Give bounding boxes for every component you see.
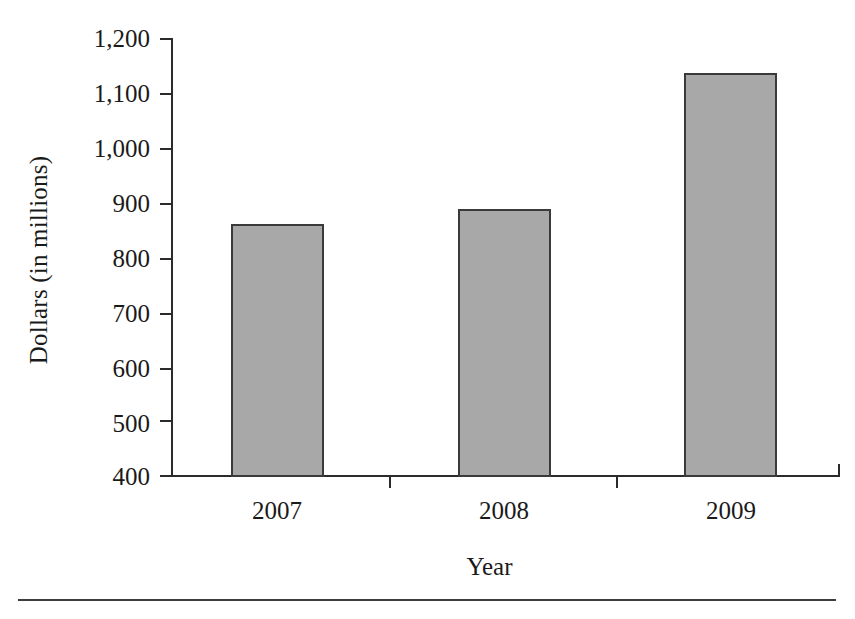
y-tick-label-600: 600 bbox=[50, 356, 150, 381]
y-axis-tick-labels: 1,200 1,100 1,000 900 800 700 600 500 40… bbox=[48, 0, 150, 619]
y-tick-label-800: 800 bbox=[50, 246, 150, 271]
y-axis-tick-500 bbox=[160, 420, 172, 422]
x-axis-tick-boundary-1 bbox=[389, 477, 391, 488]
x-axis-tick-boundary-2 bbox=[616, 477, 618, 488]
x-axis-end-cap bbox=[838, 464, 840, 477]
x-tick-label-2007: 2007 bbox=[177, 496, 377, 526]
y-tick-label-1200: 1,200 bbox=[50, 26, 150, 51]
y-axis-tick-600 bbox=[160, 368, 172, 370]
y-tick-label-700: 700 bbox=[50, 301, 150, 326]
y-tick-label-400: 400 bbox=[50, 464, 150, 489]
bar-2009[interactable] bbox=[684, 73, 777, 477]
y-axis-tick-800 bbox=[160, 258, 172, 260]
bottom-divider bbox=[18, 599, 836, 601]
x-tick-label-2008: 2008 bbox=[404, 496, 604, 526]
bar-2007[interactable] bbox=[231, 224, 324, 477]
y-axis-tick-900 bbox=[160, 203, 172, 205]
y-tick-label-1000: 1,000 bbox=[50, 136, 150, 161]
y-tick-label-500: 500 bbox=[50, 411, 150, 436]
bar-chart-figure: Dollars (in millions) 1,200 1,100 1,000 … bbox=[0, 0, 855, 619]
x-axis-title-text: Year bbox=[466, 553, 512, 580]
y-axis-tick-400 bbox=[160, 475, 172, 477]
x-tick-label-2009: 2009 bbox=[631, 496, 831, 526]
y-tick-label-1100: 1,100 bbox=[50, 81, 150, 106]
y-tick-label-900: 900 bbox=[50, 191, 150, 216]
y-axis-tick-1200 bbox=[160, 38, 172, 40]
y-axis-tick-1100 bbox=[160, 93, 172, 95]
y-axis-tick-700 bbox=[160, 313, 172, 315]
y-axis-tick-1000 bbox=[160, 148, 172, 150]
bar-2008[interactable] bbox=[458, 209, 551, 477]
x-axis-title: Year bbox=[0, 551, 855, 583]
